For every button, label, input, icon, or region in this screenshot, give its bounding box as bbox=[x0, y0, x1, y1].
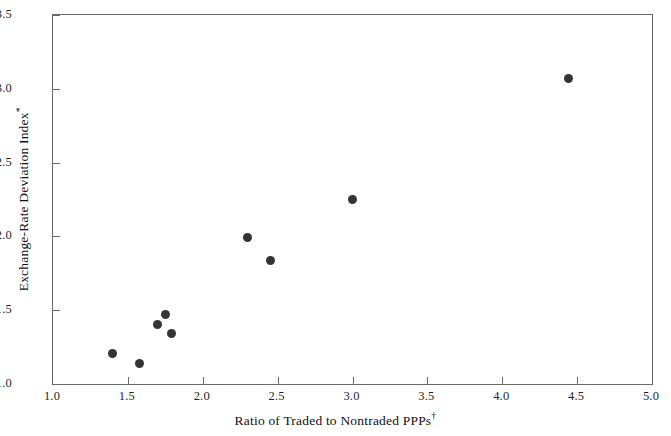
x-axis-tick-label: 5.0 bbox=[621, 390, 671, 403]
plot-area bbox=[52, 14, 653, 385]
data-point bbox=[167, 329, 176, 338]
y-axis-title-marker: * bbox=[14, 107, 25, 112]
x-axis-tick bbox=[502, 377, 503, 385]
scatter-plot-figure: Exchange-Rate Deviation Index* Ratio of … bbox=[0, 0, 671, 436]
y-axis-tick bbox=[52, 384, 60, 385]
x-axis-tick bbox=[577, 377, 578, 385]
x-axis-title-text: Ratio of Traded to Nontraded PPPs bbox=[235, 413, 432, 428]
data-point bbox=[161, 310, 170, 319]
x-axis-tick bbox=[128, 377, 129, 385]
y-axis-tick bbox=[52, 163, 60, 164]
data-point bbox=[108, 349, 117, 358]
x-axis-tick-label: 1.0 bbox=[22, 390, 82, 403]
x-axis-tick-label: 2.5 bbox=[247, 390, 307, 403]
x-axis-tick bbox=[353, 377, 354, 385]
y-axis-title: Exchange-Rate Deviation Index* bbox=[14, 29, 33, 369]
x-axis-title-marker: † bbox=[431, 410, 436, 421]
y-axis-tick-label: 3.0 bbox=[0, 82, 12, 95]
y-axis-tick-label: 1.0 bbox=[0, 377, 12, 390]
y-axis-tick-label: 1.5 bbox=[0, 303, 12, 316]
x-axis-tick-label: 3.5 bbox=[396, 390, 456, 403]
data-point bbox=[243, 233, 252, 242]
x-axis-tick bbox=[203, 377, 204, 385]
x-axis-tick-label: 1.5 bbox=[97, 390, 157, 403]
data-point bbox=[266, 256, 275, 265]
y-axis-tick bbox=[52, 15, 60, 16]
data-point bbox=[135, 359, 144, 368]
y-axis-tick-label: 2.0 bbox=[0, 229, 12, 242]
y-axis-tick bbox=[52, 310, 60, 311]
y-axis-title-text: Exchange-Rate Deviation Index bbox=[16, 112, 31, 291]
y-axis-tick bbox=[52, 236, 60, 237]
y-axis-tick bbox=[52, 89, 60, 90]
x-axis-tick bbox=[427, 377, 428, 385]
data-point bbox=[564, 74, 573, 83]
x-axis-title: Ratio of Traded to Nontraded PPPs† bbox=[0, 410, 671, 429]
x-axis-tick-label: 4.5 bbox=[546, 390, 606, 403]
y-axis-tick-label: 3.5 bbox=[0, 8, 12, 21]
x-axis-tick-label: 3.0 bbox=[322, 390, 382, 403]
x-axis-tick-label: 2.0 bbox=[172, 390, 232, 403]
x-axis-tick bbox=[278, 377, 279, 385]
data-point bbox=[153, 320, 162, 329]
x-axis-tick-label: 4.0 bbox=[471, 390, 531, 403]
data-point bbox=[348, 195, 357, 204]
y-axis-tick-label: 2.5 bbox=[0, 156, 12, 169]
